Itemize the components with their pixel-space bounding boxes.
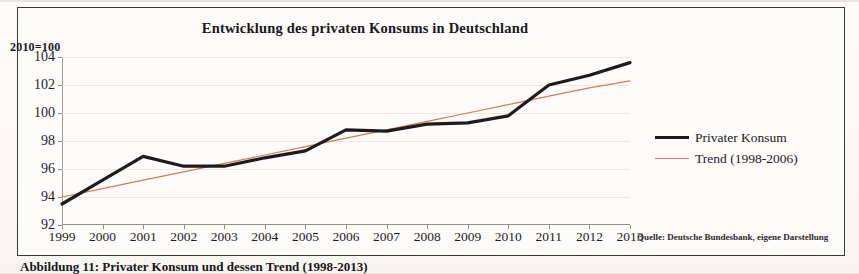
x-tick-label: 2006 bbox=[333, 229, 360, 245]
x-tick-label: 2001 bbox=[130, 229, 157, 245]
x-tick-label: 1999 bbox=[49, 229, 76, 245]
plot-area: 92949698100102104 1999200020012002200320… bbox=[62, 57, 630, 225]
y-tick-label: 98 bbox=[41, 133, 55, 149]
x-tick-label: 2011 bbox=[536, 229, 563, 245]
x-tick-label: 2002 bbox=[170, 229, 197, 245]
series-line-privater-konsum bbox=[62, 63, 630, 204]
chart-title: Entwicklung des privaten Konsums in Deut… bbox=[150, 20, 580, 37]
legend-label-trend: Trend (1998-2006) bbox=[695, 151, 798, 167]
y-tick-label: 100 bbox=[34, 105, 55, 121]
x-tick-label: 2003 bbox=[211, 229, 238, 245]
x-tick-label: 2007 bbox=[373, 229, 400, 245]
legend-item-privater-konsum: Privater Konsum bbox=[655, 127, 835, 148]
x-tick-label: 2008 bbox=[414, 229, 441, 245]
series-lines bbox=[62, 57, 630, 225]
legend-swatch-privater-konsum bbox=[655, 136, 689, 139]
source-note: Quelle: Deutsche Bundesbank, eigene Dars… bbox=[637, 232, 828, 242]
x-tick-label: 2005 bbox=[292, 229, 319, 245]
y-tick-label: 94 bbox=[41, 189, 55, 205]
y-tick-label: 104 bbox=[34, 49, 55, 65]
x-tick-label: 2012 bbox=[576, 229, 603, 245]
y-tick-label: 96 bbox=[41, 161, 55, 177]
chart-legend: Privater Konsum Trend (1998-2006) bbox=[655, 127, 835, 169]
y-tick-label: 102 bbox=[34, 77, 55, 93]
x-tick-label: 2000 bbox=[89, 229, 116, 245]
scan-edge-top bbox=[0, 0, 859, 2]
legend-item-trend: Trend (1998-2006) bbox=[655, 148, 835, 169]
x-tick-label: 2004 bbox=[251, 229, 278, 245]
legend-swatch-trend bbox=[655, 158, 689, 159]
figure-caption: Abbildung 11: Privater Konsum und dessen… bbox=[20, 259, 368, 274]
x-tick-label: 2010 bbox=[495, 229, 522, 245]
x-tick-label: 2009 bbox=[454, 229, 481, 245]
series-line-trend-1998-2006 bbox=[62, 81, 630, 197]
legend-label-privater-konsum: Privater Konsum bbox=[695, 130, 787, 146]
